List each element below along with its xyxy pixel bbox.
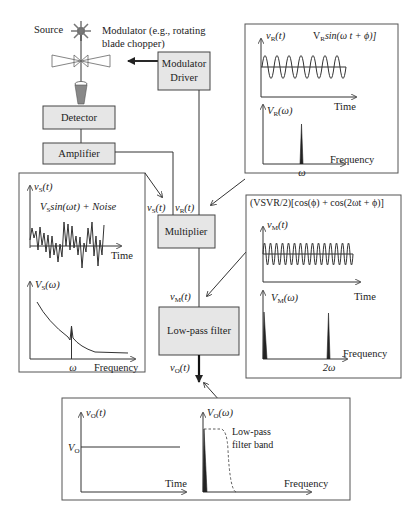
svg-text:2ω: 2ω	[323, 362, 336, 373]
svg-text:Detector: Detector	[61, 112, 98, 123]
svg-text:Low-pass: Low-pass	[232, 426, 271, 437]
svg-text:Frequency: Frequency	[343, 348, 388, 359]
source-label: Source	[34, 24, 63, 35]
svg-text:Frequency: Frequency	[94, 362, 139, 373]
reference-signal-panel: vR(t) VRsin(ω t + ϕ)] Time VR(ω) Frequen…	[245, 24, 398, 178]
modulator-label-line1: Modulator (e.g., rotating	[102, 25, 206, 37]
svg-text:Time: Time	[334, 101, 356, 112]
reference-panel-pointer	[211, 179, 245, 205]
svg-text:Frequency: Frequency	[284, 478, 329, 489]
modulator-label-line2: blade chopper)	[102, 38, 165, 50]
vs-signal-label: vS(t)	[147, 202, 166, 215]
svg-text:Frequency: Frequency	[330, 154, 375, 165]
block-lowpass-filter: Low-pass filter	[159, 307, 239, 355]
vo-signal-label: vO(t)	[170, 362, 190, 375]
filter-output-panel: vO(t) VO Time VO(ω) Low-pass filter band…	[62, 398, 350, 500]
signal-panel-pointer	[145, 173, 162, 197]
input-signal-panel: vS(t) VSsin(ωt) + Noise Time VS(ω) ω Fre…	[19, 173, 145, 373]
svg-text:Time: Time	[165, 478, 187, 489]
multiplier-panel-pointer	[207, 252, 246, 296]
svg-text:Driver: Driver	[170, 72, 198, 83]
block-detector: Detector	[43, 106, 115, 129]
source-group: Source	[34, 21, 91, 84]
svg-text:Multiplier: Multiplier	[165, 226, 208, 237]
svg-text:Low-pass filter: Low-pass filter	[167, 325, 231, 336]
block-modulator-driver: Modulator Driver	[158, 52, 210, 90]
svg-text:ω: ω	[298, 167, 305, 178]
svg-text:Modulator: Modulator	[162, 58, 207, 69]
svg-text:Time: Time	[111, 250, 133, 261]
vm-signal-label: vM(t)	[170, 291, 191, 304]
lock-in-amplifier-diagram: Source Modulator (e.g., rotating blade c…	[0, 0, 416, 521]
detector-cone-icon	[75, 82, 87, 105]
multiplier-output-panel: (VSVR/2)[cos(ϕ) + cos(2ωt + ϕ)] vM(t) Ti…	[246, 195, 401, 378]
block-multiplier: Multiplier	[158, 215, 215, 248]
svg-text:ω: ω	[69, 362, 76, 373]
svg-text:Amplifier: Amplifier	[58, 148, 100, 159]
block-amplifier: Amplifier	[43, 143, 115, 164]
svg-text:filter band: filter band	[232, 439, 273, 450]
vr-signal-label: vR(t)	[175, 202, 195, 215]
multiplier-formula: (VSVR/2)[cos(ϕ) + cos(2ωt + ϕ)]	[250, 197, 384, 209]
svg-text:Time: Time	[354, 291, 376, 302]
